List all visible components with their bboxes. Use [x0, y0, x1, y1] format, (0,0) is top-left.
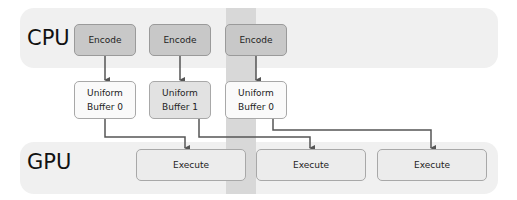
arrow-buffer-1-to-execute: [199, 119, 310, 148]
uniform-buffer-line1: Uniform: [162, 86, 198, 100]
encode-label: Encode: [88, 33, 121, 47]
uniform-buffer-line1: Uniform: [87, 86, 123, 100]
uniform-buffer-line2: Buffer 0: [87, 100, 123, 114]
execute-label: Execute: [414, 158, 450, 172]
uniform-buffer-2: Uniform Buffer 0: [225, 81, 287, 119]
uniform-buffer-line1: Uniform: [238, 86, 274, 100]
execute-task-1: Execute: [256, 149, 366, 181]
execute-task-2: Execute: [377, 149, 487, 181]
encode-task-0: Encode: [74, 24, 136, 56]
uniform-buffer-1: Uniform Buffer 1: [149, 81, 211, 119]
execute-task-0: Execute: [136, 149, 246, 181]
uniform-buffer-0: Uniform Buffer 0: [74, 81, 136, 119]
uniform-buffer-line2: Buffer 0: [238, 100, 274, 114]
execute-label: Execute: [293, 158, 329, 172]
encode-task-1: Encode: [149, 24, 211, 56]
encode-task-2: Encode: [225, 24, 287, 56]
uniform-buffer-line2: Buffer 1: [162, 100, 198, 114]
arrow-buffer-2-to-execute: [273, 119, 431, 148]
encode-label: Encode: [239, 33, 272, 47]
encode-label: Encode: [163, 33, 196, 47]
arrow-buffer-0-to-execute: [105, 119, 185, 148]
execute-label: Execute: [173, 158, 209, 172]
